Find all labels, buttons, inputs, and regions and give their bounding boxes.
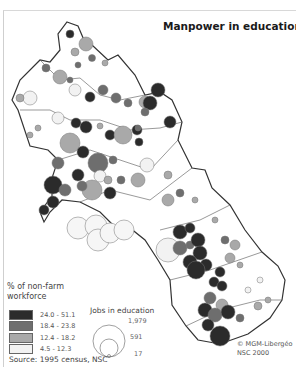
legend-swatch [9, 333, 33, 343]
source-note: Source: 1995 census, NSC [9, 355, 108, 364]
size-legend-title: Jobs in education [90, 306, 154, 315]
legend-classes: 24.0 - 51.1 18.4 - 23.8 12.4 - 18.2 4.5 … [9, 309, 75, 355]
credit-note: © MGM-Libergéo NSC 2000 [237, 340, 292, 358]
size-legend-value: 591 [130, 333, 142, 341]
legend-swatch [9, 344, 33, 354]
size-legend-circles [93, 325, 125, 358]
size-legend-value: 1,979 [128, 317, 147, 325]
legend-item: 18.4 - 23.8 [9, 321, 75, 332]
legend-item: 4.5 - 12.3 [9, 344, 75, 355]
map-title: Manpower in education [163, 20, 296, 32]
legend-item: 12.4 - 18.2 [9, 332, 75, 343]
legend-swatch [9, 310, 33, 320]
capital-circles [67, 215, 134, 251]
size-legend-value: 17 [134, 350, 142, 358]
legend-item: 24.0 - 51.1 [9, 309, 75, 320]
legend-swatch [9, 321, 33, 331]
legend-title: % of non-farm workforce [7, 282, 64, 302]
